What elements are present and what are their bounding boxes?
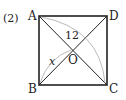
measure-label-AC: 12 [65,29,79,42]
measure-label-BO: x [49,55,56,68]
square-diagram: (2) A D B C O 12 x [0,0,126,100]
vertex-label-C: C [109,82,118,96]
vertex-label-B: B [28,82,37,96]
vertex-label-D: D [109,9,119,23]
arc-BO-measure [40,50,71,83]
vertex-label-A: A [27,9,37,23]
problem-label: (2) [3,12,19,25]
center-label-O: O [68,53,78,67]
